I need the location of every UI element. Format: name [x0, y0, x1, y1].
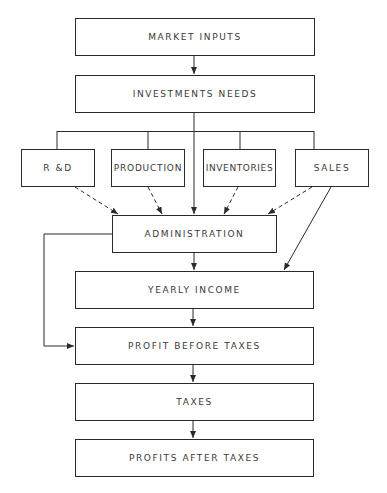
edge-production-to-administration	[148, 187, 162, 214]
node-label: ADMINISTRATION	[145, 229, 245, 239]
node-label: PROFIT BEFORE TAXES	[128, 341, 261, 351]
node-market-inputs: MARKET INPUTS	[75, 18, 315, 56]
node-label: PROFITS AFTER TAXES	[129, 453, 260, 463]
edge-sales-to-administration	[268, 187, 312, 214]
node-taxes: TAXES	[75, 383, 314, 421]
node-inventories: INVENTORIES	[203, 149, 276, 187]
node-label: MARKET INPUTS	[148, 32, 242, 42]
node-investments-needs: INVESTMENTS NEEDS	[75, 75, 315, 113]
node-profits-after-taxes: PROFITS AFTER TAXES	[75, 439, 314, 477]
node-rd: R &D	[21, 149, 95, 187]
node-label: INVENTORIES	[206, 163, 273, 173]
node-label: R &D	[43, 163, 72, 173]
node-label: YEARLY INCOME	[148, 285, 241, 295]
node-administration: ADMINISTRATION	[112, 215, 277, 253]
node-label: TAXES	[176, 397, 213, 407]
node-label: INVESTMENTS NEEDS	[133, 89, 258, 99]
node-production: PRODUCTION	[111, 149, 185, 187]
edge-inventories-to-administration	[224, 187, 238, 214]
node-label: SALES	[314, 163, 350, 173]
node-yearly-income: YEARLY INCOME	[75, 271, 314, 309]
node-label: PRODUCTION	[114, 163, 183, 173]
node-sales: SALES	[295, 149, 369, 187]
node-profit-before-taxes: PROFIT BEFORE TAXES	[75, 327, 314, 365]
edge-rd-to-administration	[75, 187, 118, 214]
